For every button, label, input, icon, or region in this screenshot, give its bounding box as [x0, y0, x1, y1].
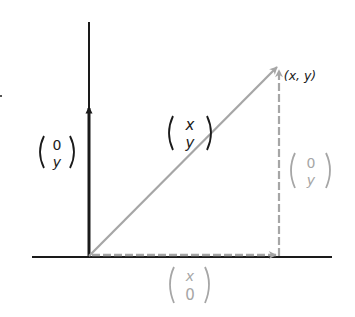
vertical-vector-bottom: y [52, 154, 62, 170]
horizontal-vector-top: x [185, 268, 195, 284]
stray-mark [0, 95, 2, 97]
diagonal-vector-label: x y [169, 116, 211, 152]
right-vertical-vector-label: 0 y [291, 153, 330, 188]
horizontal-vector-label: x 0 [170, 267, 209, 304]
horizontal-vector-bottom: 0 [185, 286, 195, 304]
vertical-vector-top: 0 [53, 137, 62, 153]
point-label: (x, y) [284, 68, 317, 83]
vertical-vector-label: 0 y [40, 136, 74, 170]
diagonal-vector-bottom: y [185, 134, 196, 152]
diagonal-vector-x-y [89, 67, 277, 256]
vector-decomposition-diagram: (x, y) 0 y x y 0 y x 0 [0, 0, 355, 317]
diagonal-vector-top: x [185, 116, 195, 134]
right-vertical-vector-top: 0 [307, 155, 316, 171]
right-vertical-vector-bottom: y [306, 172, 316, 188]
